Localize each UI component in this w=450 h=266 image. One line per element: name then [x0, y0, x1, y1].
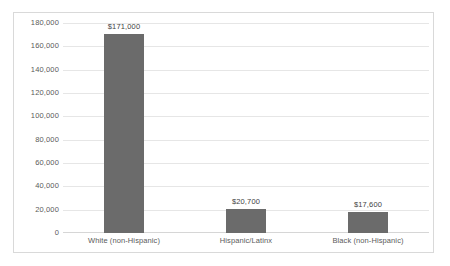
y-axis-tick-label: 60,000 — [35, 159, 59, 167]
bar[interactable] — [226, 209, 266, 233]
bar-value-label: $20,700 — [206, 198, 286, 206]
y-axis-tick-label: 80,000 — [35, 136, 59, 144]
y-axis-tick-label: 0 — [55, 229, 59, 237]
y-axis-tick-label: 140,000 — [31, 66, 59, 74]
y-axis-tick-labels: 020,00040,00060,00080,000100,000120,0001… — [24, 23, 59, 233]
x-axis-tick-label: Black (non-Hispanic) — [308, 237, 428, 245]
bar-value-label: $171,000 — [84, 23, 164, 31]
plot-area: $171,000$20,700$17,600 — [63, 23, 429, 233]
x-axis-category-labels: White (non-Hispanic)Hispanic/LatinxBlack… — [63, 237, 429, 253]
chart-canvas: 020,00040,00060,00080,000100,000120,0001… — [13, 12, 434, 253]
y-axis-tick-label: 180,000 — [31, 19, 59, 27]
bar[interactable] — [348, 212, 388, 233]
y-axis-tick-label: 120,000 — [31, 89, 59, 97]
x-axis-tick-label: White (non-Hispanic) — [64, 237, 184, 245]
y-axis-tick-label: 40,000 — [35, 183, 59, 191]
y-axis-tick-label: 100,000 — [31, 113, 59, 121]
y-axis-tick-label: 20,000 — [35, 206, 59, 214]
y-axis-tick-label: 160,000 — [31, 43, 59, 51]
bar[interactable] — [104, 34, 144, 234]
x-axis-tick-label: Hispanic/Latinx — [186, 237, 306, 245]
bar-value-label: $17,600 — [328, 201, 408, 209]
